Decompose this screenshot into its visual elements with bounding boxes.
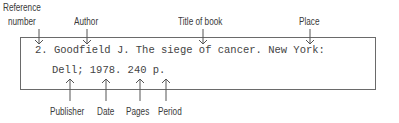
pages-label: Pages bbox=[126, 106, 149, 117]
arrow-up-icon bbox=[162, 79, 170, 101]
arrow-down-icon bbox=[306, 29, 314, 44]
arrow-up-icon bbox=[102, 79, 110, 101]
arrow-down-icon bbox=[83, 29, 91, 44]
arrow-down-icon bbox=[199, 29, 207, 44]
arrow-up-icon bbox=[66, 79, 74, 101]
publisher-label: Publisher bbox=[50, 106, 84, 117]
period-label: Period bbox=[158, 106, 182, 117]
arrows bbox=[0, 0, 399, 123]
arrow-down-icon bbox=[35, 29, 43, 44]
arrow-up-icon bbox=[136, 79, 144, 101]
date-label: Date bbox=[97, 106, 114, 117]
